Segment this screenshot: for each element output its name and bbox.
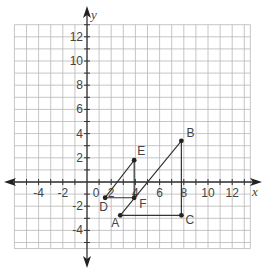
point-label-b: B [186, 126, 194, 140]
point-label-f: F [139, 197, 146, 211]
point-label-a: A [111, 216, 119, 230]
y-tick-label: 8 [76, 78, 83, 92]
x-tick-label: 12 [226, 186, 240, 200]
point-label-c: C [185, 213, 194, 227]
point-e [132, 158, 137, 163]
triangle-abc [120, 141, 181, 215]
y-tick-label: 10 [70, 54, 84, 68]
coordinate-plane: xy -4-22468101212108642-2-40 ABCDEF [0, 0, 264, 274]
y-tick-label: -4 [72, 223, 83, 237]
x-axis-label: x [251, 184, 258, 199]
point-label-d: D [99, 200, 108, 214]
points: ABCDEF [99, 126, 194, 230]
triangle-def [105, 160, 134, 198]
y-tick-label: 4 [76, 127, 83, 141]
origin-label: 0 [93, 186, 100, 200]
y-tick-label: -2 [72, 199, 83, 213]
point-label-e: E [137, 144, 145, 158]
axes: xy [4, 6, 262, 268]
point-f [132, 195, 137, 200]
point-c [179, 213, 184, 218]
y-tick-label: 12 [70, 30, 84, 44]
y-tick-label: 2 [76, 151, 83, 165]
x-tick-label: 10 [201, 186, 215, 200]
y-tick-label: 6 [76, 102, 83, 116]
x-tick-label: -4 [33, 186, 44, 200]
x-tick-label: 6 [156, 186, 163, 200]
x-tick-label: -2 [57, 186, 68, 200]
y-axis-label: y [89, 7, 97, 22]
point-b [179, 138, 184, 143]
